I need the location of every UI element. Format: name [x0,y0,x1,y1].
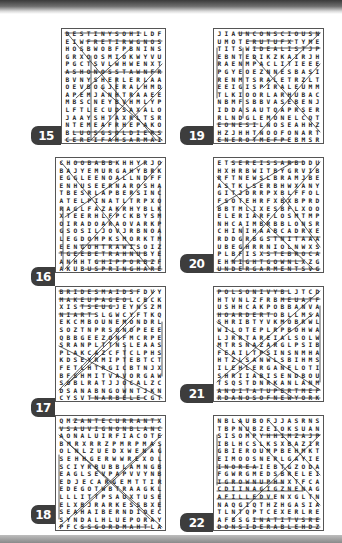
grid-letter: S [92,60,99,68]
grid-letter: P [314,212,321,220]
grid-letter: S [149,493,156,501]
puzzle-17: BRIDESMAIDSFDVYMAKEUPAGEOLCBCKXISTSEUGJE… [55,286,166,402]
grid-letter: I [258,167,265,175]
grid-letter: C [142,394,149,402]
grid-letter: H [223,372,230,380]
grid-row: UNDERGARMENTSVG [216,265,321,273]
grid-letter: N [86,417,93,425]
grid-letter: N [258,129,265,137]
grid-letter: E [78,121,85,129]
grid-letter: O [293,326,300,334]
puzzle-20: ETSEREISSARBDDUHXHRBWITBYGRVIBRFTNEWSLBR… [213,157,324,273]
grid-letter: E [223,349,230,357]
grid-letter: R [272,326,279,334]
grid-letter: H [121,60,128,68]
grid-letter: N [79,387,86,395]
grid-letter: K [72,296,79,304]
grid-letter: R [142,220,149,228]
grid-letter: B [79,501,86,509]
grid-letter: T [107,341,114,349]
grid-letter: A [65,205,72,213]
grid-letter: M [307,356,314,364]
grid-row: BRIDESMAIDSFDVY [58,288,163,296]
grid-letter: E [244,53,251,61]
grid-letter: Y [128,303,135,311]
grid-letter: B [135,356,142,364]
grid-row: AFILLEDVENXGLTN [216,493,321,501]
grid-letter: D [58,387,65,395]
grid-letter: A [142,425,149,433]
grid-letter: J [279,417,286,425]
grid-letter: L [223,250,230,258]
grid-letter: N [106,91,113,99]
grid-letter: M [106,53,113,61]
grid-letter: A [99,121,106,129]
grid-letter: M [230,455,237,463]
grid-row: TITSWIDEALISTJP [216,45,321,53]
grid-letter: L [286,189,293,197]
grid-letter: S [300,516,307,524]
grid-row: HOSBWOBFPBNINS [64,45,163,53]
grid-letter: E [272,508,279,516]
grid-letter: L [58,493,65,501]
grid-letter: L [237,493,244,501]
grid-letter: K [156,167,163,175]
grid-letter: E [128,76,135,84]
grid-letter: O [86,485,93,493]
grid-letter: L [244,493,251,501]
grid-letter: M [93,235,100,243]
grid-letter: H [251,258,258,266]
grid-letter: Y [258,432,265,440]
grid-letter: G [237,235,244,243]
grid-letter: S [237,288,244,296]
grid-letter: Z [258,68,265,76]
grid-letter: Z [293,463,300,471]
grid-letter: S [156,129,163,137]
grid-letter: A [93,159,100,167]
grid-letter: R [272,83,279,91]
grid-letter: L [244,205,251,213]
grid-row: IGROWNUPHNXTFCA [216,478,321,486]
grid-letter: G [237,501,244,509]
grid-letter: O [156,121,163,129]
grid-letter: M [156,303,163,311]
grid-letter: E [265,425,272,433]
grid-letter: S [58,508,65,516]
grid-letter: E [72,212,79,220]
grid-letter: T [85,30,92,38]
grid-letter: A [156,227,163,235]
grid-letter: E [135,60,142,68]
grid-letter: A [265,341,272,349]
grid-letter: R [237,311,244,319]
grid-letter: E [230,136,237,144]
grid-letter: M [300,387,307,395]
grid-letter: I [314,470,321,478]
grid-letter: J [142,387,149,395]
grid-letter: Y [106,30,113,38]
grid-letter: O [142,432,149,440]
grid-letter: A [114,174,121,182]
grid-letter: G [223,470,230,478]
grid-letter: O [223,121,230,129]
grid-letter: E [286,121,293,129]
grid-letter: N [223,265,230,273]
grid-letter: Q [230,501,237,509]
grid-letter: B [272,227,279,235]
grid-letter: A [58,432,65,440]
grid-letter: G [251,265,258,273]
grid-letter: Y [272,288,279,296]
grid-letter: C [156,379,163,387]
grid-letter: L [223,212,230,220]
grid-letter: A [237,220,244,228]
grid-letter: N [141,447,148,455]
grid-letter: D [111,447,118,455]
grid-letter: U [293,91,300,99]
grid-letter: R [100,364,107,372]
grid-letter: H [272,478,279,486]
grid-letter: O [92,83,99,91]
grid-row: SEHHGERWWREXOL [58,455,163,463]
grid-letter: S [237,379,244,387]
grid-letter: X [286,493,293,501]
grid-letter: G [258,485,265,493]
grid-letter: Z [72,326,79,334]
